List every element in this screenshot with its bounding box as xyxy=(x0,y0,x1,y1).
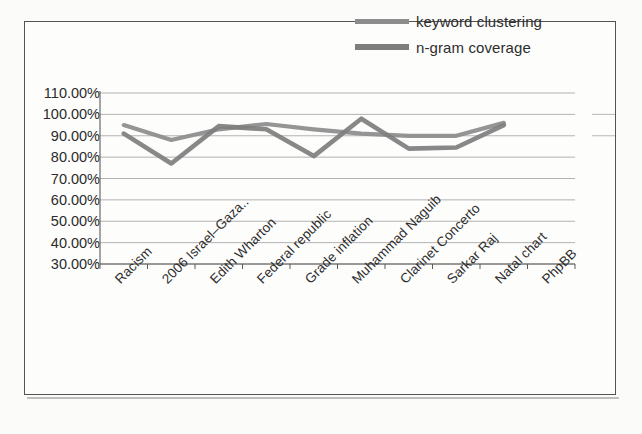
x-axis-tick-label: Muhammad Naguib xyxy=(349,192,444,287)
x-axis-tick-label: PhpBB xyxy=(539,246,580,287)
x-axis-tick-label: Racism xyxy=(112,244,155,287)
x-axis-tick-label: 2006 Israel–Gaza.. xyxy=(159,194,252,287)
x-axis-labels: Racism2006 Israel–Gaza..Edith WhartonFed… xyxy=(0,0,642,434)
